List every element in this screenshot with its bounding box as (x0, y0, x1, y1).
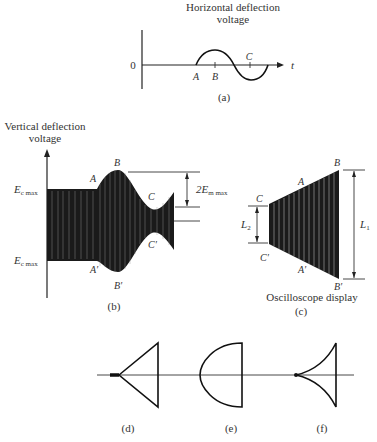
panel-b-caption: (b) (108, 300, 121, 313)
panel-b-y-arrow-icon (44, 149, 50, 157)
panel-b-dim-arrow-up-icon (185, 173, 189, 179)
pattern-f-concave: (f) (294, 343, 336, 435)
panel-b-point-c-prime: C′ (148, 239, 158, 250)
panel-c-l2-label: L2 (240, 218, 251, 232)
panel-b-point-b: B (114, 157, 120, 168)
panel-c-l2-arrow-down-icon (255, 236, 259, 242)
pattern-e-caption: (e) (225, 422, 238, 435)
panel-a-point-b: B (212, 71, 218, 82)
panel-c-caption: (c) (295, 305, 308, 318)
panel-c-l1-label: L1 (359, 218, 370, 232)
panel-b-lower-level-label: Ec max (13, 254, 38, 268)
panel-c-point-b: B (334, 157, 340, 168)
panel-b-vertical-deflection: Vertical deflection voltage Ec max Ec ma… (5, 120, 228, 313)
panel-a-point-c: C (246, 51, 253, 62)
panel-a-zero-label: 0 (130, 59, 136, 71)
pattern-f-caption: (f) (317, 422, 328, 435)
panel-a-x-arrow-icon (277, 62, 284, 68)
panel-c-l2-arrow-up-icon (255, 207, 259, 213)
panel-c-l1-arrow-down-icon (352, 272, 356, 278)
panel-b-point-a: A (89, 173, 97, 184)
panel-a-t-label: t (291, 59, 295, 71)
panel-b-point-a-prime: A′ (89, 264, 99, 275)
pattern-f-vertex-dot (294, 373, 298, 377)
panel-b-title-line1: Vertical deflection (5, 120, 86, 132)
pattern-e-convex: (e) (200, 343, 242, 435)
panel-a-point-a: A (192, 71, 200, 82)
panel-b-title-line2: voltage (29, 132, 61, 144)
panel-b-dim-label: 2Em max (196, 183, 228, 197)
modulation-trapezoid-diagram: Horizontal deflection voltage 0 t A B C … (0, 0, 377, 442)
panel-c-point-c-prime: C′ (260, 252, 270, 263)
panel-c-point-a: A (297, 176, 305, 187)
pattern-d-overmodulation: (d) (110, 343, 158, 435)
panel-a-caption: (a) (218, 91, 231, 104)
panel-c-oscilloscope-display: B B′ A A′ C C′ L2 L1 Oscilloscope displa… (240, 157, 370, 318)
panel-b-dim-arrow-down-icon (185, 200, 189, 206)
panel-a-horizontal-deflection: Horizontal deflection voltage 0 t A B C … (130, 1, 295, 104)
panel-c-point-a-prime: A′ (297, 264, 307, 275)
panel-b-point-b-prime: B′ (114, 280, 123, 291)
pattern-d-caption: (d) (122, 422, 135, 435)
distortion-patterns: (d) (e) (f) (97, 343, 354, 435)
panel-b-upper-level-label: Ec max (13, 183, 38, 197)
panel-a-title-line1: Horizontal deflection (186, 1, 280, 13)
panel-c-subtitle: Oscilloscope display (266, 291, 358, 303)
panel-c-point-c: C (256, 193, 263, 204)
panel-b-point-c: C (148, 191, 155, 202)
panel-a-title-line2: voltage (217, 13, 249, 25)
panel-c-l1-arrow-up-icon (352, 171, 356, 177)
panel-b-am-envelope (47, 170, 174, 272)
